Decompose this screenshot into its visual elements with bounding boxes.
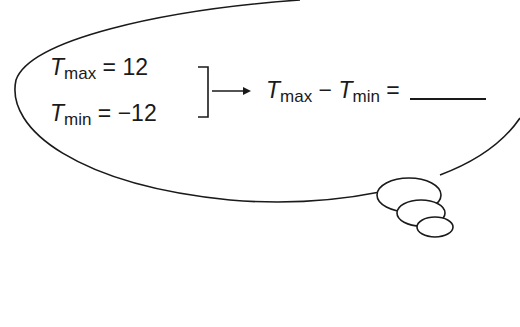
subscript: min (352, 87, 379, 106)
var: T (50, 54, 64, 80)
answer-blank[interactable] (410, 98, 486, 100)
subscript: min (64, 110, 91, 129)
value: 12 (122, 54, 148, 80)
tmin-equation: Tmin = −12 (50, 102, 157, 128)
var: T (338, 77, 352, 103)
tmax-equation: Tmax = 12 (50, 56, 148, 82)
thought-circle-small (417, 217, 453, 237)
operator: = (103, 54, 116, 80)
value: −12 (118, 100, 157, 126)
var: T (266, 77, 280, 103)
bracket (198, 67, 208, 117)
difference-equation: Tmax − Tmin = (266, 79, 486, 105)
thought-bubble (0, 0, 520, 327)
subscript: max (64, 64, 96, 83)
equals-operator: = (386, 77, 399, 103)
operator: = (98, 100, 111, 126)
right-arrow-icon (243, 87, 251, 95)
subscript: max (280, 87, 312, 106)
var: T (50, 100, 64, 126)
minus-operator: − (319, 77, 332, 103)
